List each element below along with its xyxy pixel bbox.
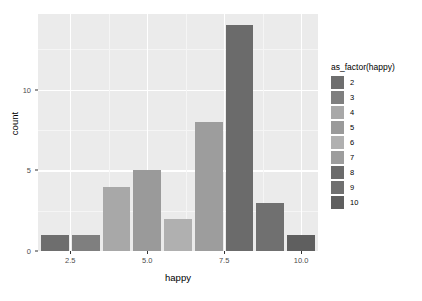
- y-tick-label: 10: [23, 85, 31, 94]
- x-tick-mark: [147, 251, 148, 254]
- legend-label: 4: [350, 108, 354, 117]
- gridline-minor-vertical: [186, 14, 187, 251]
- x-axis-title: happy: [38, 272, 318, 283]
- legend-label: 2: [350, 78, 354, 87]
- legend-keys: 2345678910: [331, 75, 419, 210]
- x-tick-mark: [301, 251, 302, 254]
- legend-label: 7: [350, 153, 354, 162]
- legend-swatch: [331, 181, 344, 194]
- x-tick-label: 5.0: [142, 256, 152, 265]
- legend-item: 4: [331, 105, 419, 120]
- y-tick-mark: [35, 251, 38, 252]
- chart-root: count happy as_factor(happy) 2345678910 …: [0, 0, 422, 301]
- gridline-major-horizontal: [38, 170, 318, 171]
- legend-swatch: [331, 151, 344, 164]
- y-tick-mark: [35, 170, 38, 171]
- legend-swatch: [331, 166, 344, 179]
- bar: [41, 235, 69, 251]
- y-tick-label: 0: [27, 247, 31, 256]
- legend-label: 10: [350, 198, 358, 207]
- bar: [103, 187, 131, 251]
- bar: [133, 170, 161, 251]
- legend-label: 3: [350, 93, 354, 102]
- legend-item: 7: [331, 150, 419, 165]
- y-tick-mark: [35, 89, 38, 90]
- bar: [72, 235, 100, 251]
- bar: [164, 219, 192, 251]
- bar: [226, 25, 254, 251]
- legend-label: 8: [350, 168, 354, 177]
- legend-swatch: [331, 91, 344, 104]
- bar: [256, 203, 284, 251]
- legend-label: 5: [350, 123, 354, 132]
- x-tick-label: 7.5: [219, 256, 229, 265]
- legend-item: 3: [331, 90, 419, 105]
- legend-swatch: [331, 76, 344, 89]
- legend-item: 8: [331, 165, 419, 180]
- legend-item: 6: [331, 135, 419, 150]
- legend-swatch: [331, 136, 344, 149]
- legend-label: 6: [350, 138, 354, 147]
- x-tick-label: 2.5: [65, 256, 75, 265]
- gridline-major-vertical: [70, 14, 71, 251]
- gridline-minor-horizontal: [38, 130, 318, 131]
- legend-title: as_factor(happy): [331, 62, 419, 72]
- legend-swatch: [331, 121, 344, 134]
- legend-label: 9: [350, 183, 354, 192]
- x-tick-mark: [70, 251, 71, 254]
- x-tick-mark: [224, 251, 225, 254]
- legend: as_factor(happy) 2345678910: [331, 62, 419, 210]
- legend-item: 5: [331, 120, 419, 135]
- plot-panel: [38, 14, 318, 251]
- legend-swatch: [331, 106, 344, 119]
- gridline-major-horizontal: [38, 90, 318, 91]
- x-tick-label: 10.0: [294, 256, 309, 265]
- legend-item: 10: [331, 195, 419, 210]
- legend-item: 9: [331, 180, 419, 195]
- legend-swatch: [331, 196, 344, 209]
- gridline-major-vertical: [301, 14, 302, 251]
- bar: [195, 122, 223, 251]
- y-tick-label: 5: [27, 166, 31, 175]
- y-axis-title: count: [9, 94, 20, 154]
- legend-item: 2: [331, 75, 419, 90]
- bar: [287, 235, 315, 251]
- gridline-minor-horizontal: [38, 49, 318, 50]
